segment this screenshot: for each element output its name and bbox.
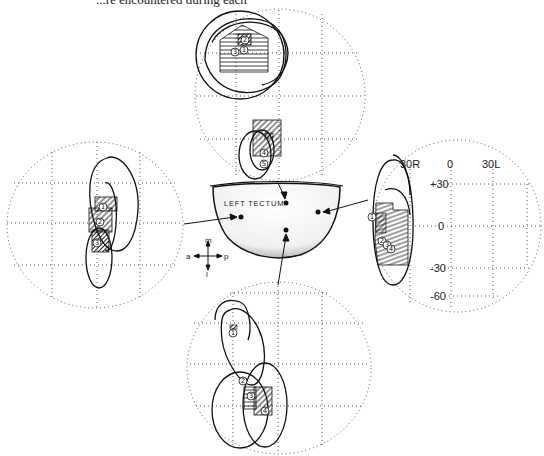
compass-anterior: a xyxy=(186,252,191,261)
recording-site-left xyxy=(239,215,244,220)
y-tick-plus30: +30 xyxy=(430,178,449,190)
svg-text:3: 3 xyxy=(249,392,253,400)
svg-text:2: 2 xyxy=(243,36,247,44)
svg-text:4: 4 xyxy=(262,149,267,157)
x-tick-0: 0 xyxy=(447,158,453,170)
svg-text:4: 4 xyxy=(389,245,394,253)
svg-text:4: 4 xyxy=(263,407,268,415)
recording-site-right xyxy=(316,210,321,215)
left-tectum: LEFT TECTUM xyxy=(210,182,343,258)
receptive-field-diagram: 2 1 3 4 5 1 xyxy=(0,0,544,456)
x-tick-30L: 30L xyxy=(482,158,500,170)
visual-field-right: 1 2 3 4 30R 0 30L +30 0 -30 -60 xyxy=(368,140,541,312)
svg-text:1: 1 xyxy=(231,329,235,337)
svg-text:1: 1 xyxy=(242,46,246,54)
compass-lateral: l xyxy=(206,270,208,279)
y-tick-minus60: -60 xyxy=(430,290,446,302)
svg-text:3: 3 xyxy=(233,48,237,56)
recording-site-bottom xyxy=(284,228,289,233)
axis-labels-right: 30R 0 30L +30 0 -30 -60 xyxy=(400,158,500,302)
svg-text:5: 5 xyxy=(262,160,266,168)
recording-site-top xyxy=(284,201,289,206)
orientation-compass: m l a p xyxy=(186,236,229,279)
svg-text:3: 3 xyxy=(95,239,99,247)
compass-posterior: p xyxy=(224,252,229,261)
visual-field-top: 2 1 3 4 5 xyxy=(195,9,365,181)
visual-field-left: 1 2 3 xyxy=(7,142,183,308)
y-tick-minus30: -30 xyxy=(430,262,446,274)
visual-field-bottom: 1 2 3 4 xyxy=(187,282,371,454)
svg-text:2: 2 xyxy=(98,218,102,226)
svg-text:1: 1 xyxy=(370,213,374,221)
tectum-label: LEFT TECTUM xyxy=(224,199,284,208)
svg-text:2: 2 xyxy=(241,377,245,385)
x-tick-30R: 30R xyxy=(400,158,420,170)
compass-medial: m xyxy=(205,236,212,245)
svg-text:1: 1 xyxy=(101,203,105,211)
y-tick-0: 0 xyxy=(438,220,444,232)
